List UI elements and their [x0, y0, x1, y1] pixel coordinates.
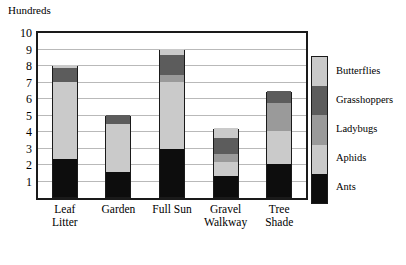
bar-segment-butterflies	[214, 128, 238, 138]
stacked-bar[interactable]	[105, 116, 131, 199]
legend-swatch-butterflies	[312, 57, 327, 86]
bar-segment-grasshoppers	[106, 115, 130, 125]
bar-segment-ladybugs	[267, 103, 291, 131]
plot-area	[38, 33, 306, 198]
bar-segment-aphids	[53, 82, 77, 160]
legend-label-grasshoppers: Grasshoppers	[336, 94, 393, 106]
legend-swatch-bar	[311, 56, 328, 204]
bar-segment-aphids	[106, 124, 130, 172]
x-axis-label-tree-shade: Tree Shade	[235, 203, 323, 228]
y-tick-label-5: 5	[6, 110, 32, 122]
legend-label-ladybugs: Ladybugs	[336, 123, 377, 135]
legend-swatch-aphids	[312, 145, 327, 174]
y-tick-label-1: 1	[6, 176, 32, 188]
bar-segment-ladybugs	[214, 154, 238, 162]
chart-legend: ButterfliesGrasshoppersLadybugsAphidsAnt…	[311, 56, 406, 206]
bar-segment-ants	[53, 159, 77, 197]
y-tick-label-10: 10	[6, 27, 32, 39]
bar-segment-ants	[267, 164, 291, 197]
stacked-bar[interactable]	[52, 66, 78, 198]
stacked-bar[interactable]	[159, 50, 185, 199]
stacked-bar[interactable]	[213, 129, 239, 198]
y-tick-label-4: 4	[6, 126, 32, 138]
stacked-bar[interactable]	[266, 92, 292, 198]
bar-segment-grasshoppers	[160, 55, 184, 75]
legend-swatch-ladybugs	[312, 115, 327, 144]
legend-swatch-ants	[312, 174, 327, 203]
bar-segment-aphids	[214, 162, 238, 175]
bar-segment-ants	[214, 176, 238, 197]
bar-segment-grasshoppers	[267, 91, 291, 103]
bar-segment-ants	[160, 149, 184, 197]
legend-swatch-grasshoppers	[312, 86, 327, 115]
legend-label-butterflies: Butterflies	[336, 65, 380, 77]
y-axis-unit-caption: Hundreds	[8, 4, 51, 17]
bar-segment-grasshoppers	[214, 138, 238, 155]
bar-segment-ladybugs	[160, 75, 184, 82]
plot-frame	[36, 31, 308, 200]
y-tick-label-9: 9	[6, 44, 32, 56]
y-tick-label-7: 7	[6, 77, 32, 89]
y-tick-label-8: 8	[6, 60, 32, 72]
y-tick-label-6: 6	[6, 93, 32, 105]
bar-segment-grasshoppers	[53, 68, 77, 81]
bar-segment-aphids	[267, 131, 291, 164]
legend-label-aphids: Aphids	[336, 152, 366, 164]
legend-label-ants: Ants	[336, 181, 356, 193]
y-tick-label-3: 3	[6, 143, 32, 155]
y-tick-label-2: 2	[6, 159, 32, 171]
bar-segment-aphids	[160, 82, 184, 150]
bar-segment-ants	[106, 172, 130, 197]
bar-segment-butterflies	[160, 49, 184, 56]
